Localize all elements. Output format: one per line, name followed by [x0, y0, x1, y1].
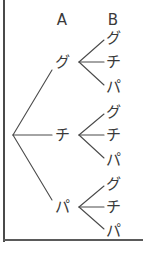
- tree-branch-lines: [0, 0, 143, 253]
- node-a-pa-b-pa: パ: [106, 224, 121, 239]
- branch-level2-6: [79, 186, 104, 207]
- node-a-gu-b-gu: グ: [106, 31, 121, 46]
- node-a-chi: チ: [55, 128, 70, 143]
- node-a-gu: グ: [55, 55, 70, 70]
- node-a-pa: パ: [55, 200, 70, 215]
- branch-level2-3: [79, 114, 104, 135]
- node-a-gu-b-pa: パ: [106, 80, 121, 95]
- node-a-pa-b-gu: グ: [106, 177, 121, 192]
- column-header-a: A: [57, 13, 67, 28]
- node-a-gu-b-chi: チ: [106, 55, 121, 70]
- tree-diagram-figure: ABグチパグチパグチパグチパ: [0, 0, 143, 253]
- branch-level2-2: [79, 62, 104, 85]
- node-a-pa-b-chi: チ: [106, 200, 121, 215]
- column-header-b: B: [108, 13, 118, 28]
- branch-level2-0: [79, 40, 104, 62]
- branch-level2-8: [79, 207, 104, 229]
- branch-root-0: [13, 70, 52, 135]
- node-a-chi-b-gu: グ: [106, 105, 121, 120]
- node-a-chi-b-pa: パ: [106, 153, 121, 168]
- node-a-chi-b-chi: チ: [106, 128, 121, 143]
- branch-level2-5: [79, 135, 104, 158]
- branch-root-2: [13, 135, 52, 200]
